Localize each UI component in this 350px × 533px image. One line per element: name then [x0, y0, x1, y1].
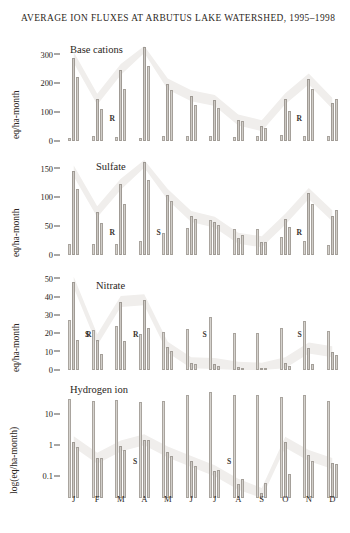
y-tick-layer: 3002001000	[0, 38, 60, 150]
bar-layer	[62, 275, 344, 370]
bar	[237, 367, 240, 370]
annotation-r: R	[109, 114, 115, 123]
bar-layer	[62, 390, 344, 498]
bar-group	[156, 390, 180, 498]
bar	[115, 244, 118, 256]
annotation-s: S	[227, 457, 231, 466]
bar	[194, 364, 197, 370]
bar-group	[321, 160, 345, 255]
bar	[115, 400, 118, 498]
bar	[143, 162, 146, 255]
y-tick-label: 200	[40, 79, 60, 88]
x-axis-label: J	[190, 494, 193, 504]
x-axis-label: N	[306, 494, 312, 504]
bar	[241, 121, 244, 141]
bar-group	[156, 46, 180, 141]
bar	[303, 321, 306, 370]
bar-group	[250, 46, 274, 141]
bar	[190, 461, 193, 498]
bar-group	[180, 160, 204, 255]
bar	[170, 351, 173, 370]
bar	[288, 111, 291, 141]
x-axis-label: D	[329, 494, 335, 504]
bar	[284, 219, 287, 255]
bar-group	[203, 160, 227, 255]
y-tick-label: 0.1	[43, 472, 60, 481]
bar-group	[274, 275, 298, 370]
bar	[264, 368, 267, 370]
y-tick-label: 40	[45, 292, 60, 301]
bar	[335, 355, 338, 370]
bar-group	[86, 46, 110, 141]
bar-group	[321, 46, 345, 141]
plot-area	[62, 46, 344, 141]
bar-group	[180, 275, 204, 370]
bar	[115, 137, 118, 141]
figure-root: AVERAGE ION FLUXES AT ARBUTUS LAKE WATER…	[0, 0, 350, 533]
panel-nitrate: Nitrate eq/ha-month 50403020100 RSRSS	[0, 267, 350, 379]
y-tick-label: 150	[40, 164, 60, 173]
bar-group	[321, 275, 345, 370]
bar	[186, 329, 189, 370]
bar-group	[109, 46, 133, 141]
bar	[213, 100, 216, 141]
bar-group	[227, 275, 251, 370]
bar	[233, 395, 236, 498]
bar	[209, 136, 212, 141]
bar	[256, 136, 259, 141]
bar-group	[62, 390, 86, 498]
bar-group	[203, 46, 227, 141]
annotation-s: S	[133, 457, 137, 466]
bar	[96, 99, 99, 141]
bar	[307, 455, 310, 498]
bar	[100, 223, 103, 255]
bar	[280, 397, 283, 498]
bar	[139, 334, 142, 370]
bar	[190, 363, 193, 370]
bar	[115, 326, 118, 370]
bar	[123, 204, 126, 255]
bar	[264, 128, 267, 141]
bar-group	[274, 46, 298, 141]
bar-group	[133, 160, 157, 255]
y-tick-label: 10	[45, 410, 60, 419]
y-tick-label: 50	[45, 222, 60, 231]
y-tick-label: 100	[40, 193, 60, 202]
y-tick-layer: 150100500	[0, 152, 60, 264]
panel-base-cations: Base cations eq/ha-month 3002001000 RR	[0, 38, 350, 150]
bar	[186, 228, 189, 255]
bar	[147, 180, 150, 255]
panel-sulfate: Sulfate eq/ha-month 150100500 RSR	[0, 152, 350, 264]
y-tick-layer: 50403020100	[0, 267, 60, 379]
bar	[162, 233, 165, 255]
bar	[123, 450, 126, 498]
bar	[217, 108, 220, 141]
x-axis-label: M	[117, 494, 125, 504]
bar-group	[109, 275, 133, 370]
bar	[303, 241, 306, 255]
annotation-s: S	[297, 330, 301, 339]
bar-group	[180, 46, 204, 141]
bar	[260, 368, 263, 370]
y-tick-label: 20	[45, 329, 60, 338]
bar	[194, 219, 197, 255]
bar	[166, 195, 169, 255]
bar-group	[203, 275, 227, 370]
bar	[288, 366, 291, 370]
bar	[96, 212, 99, 255]
bar	[72, 442, 75, 498]
annotation-s: S	[85, 330, 89, 339]
x-axis-label: O	[282, 494, 288, 504]
annotation-r: R	[297, 114, 303, 123]
bar	[72, 171, 75, 255]
bar-layer	[62, 46, 344, 141]
bar	[284, 99, 287, 141]
bar	[327, 401, 330, 498]
bar	[92, 401, 95, 498]
bar-group	[109, 390, 133, 498]
bar-group	[227, 390, 251, 498]
bar	[186, 136, 189, 141]
x-axis-labels: JFMAMJJASOND	[62, 494, 344, 508]
y-tick-label: 30	[45, 311, 60, 320]
plot-area	[62, 160, 344, 255]
